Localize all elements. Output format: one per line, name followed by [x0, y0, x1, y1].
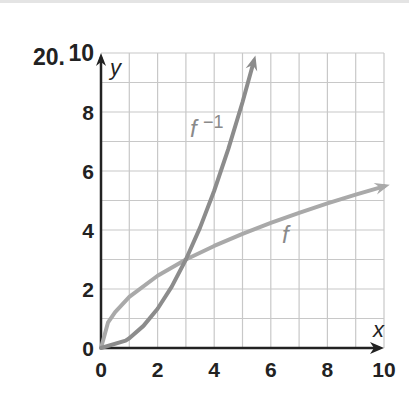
curves — [101, 55, 390, 348]
label-f-inverse-superscript: −1 — [203, 112, 224, 132]
y-tick-label: 6 — [82, 160, 94, 183]
x-tick-label: 2 — [152, 358, 164, 381]
y-tick-label: 4 — [82, 219, 94, 242]
x-tick-label: 10 — [372, 358, 395, 381]
y-tick-label: 2 — [82, 278, 94, 301]
x-axis-label: x — [372, 317, 385, 342]
label-f: f — [282, 221, 291, 248]
y-axis-label: y — [108, 55, 123, 80]
chart: 02468100246810xyff−1 — [0, 0, 409, 401]
y-tick-label: 8 — [82, 101, 94, 124]
label-f-inverse: f — [190, 115, 199, 142]
x-tick-label: 8 — [322, 358, 334, 381]
x-tick-label: 6 — [265, 358, 277, 381]
x-tick-label: 4 — [208, 358, 220, 381]
x-tick-label: 0 — [95, 358, 107, 381]
y-tick-label: 0 — [82, 337, 94, 360]
y-tick-label: 10 — [68, 40, 94, 66]
labels: 02468100246810xyff−1 — [68, 40, 395, 381]
axes — [96, 53, 384, 354]
